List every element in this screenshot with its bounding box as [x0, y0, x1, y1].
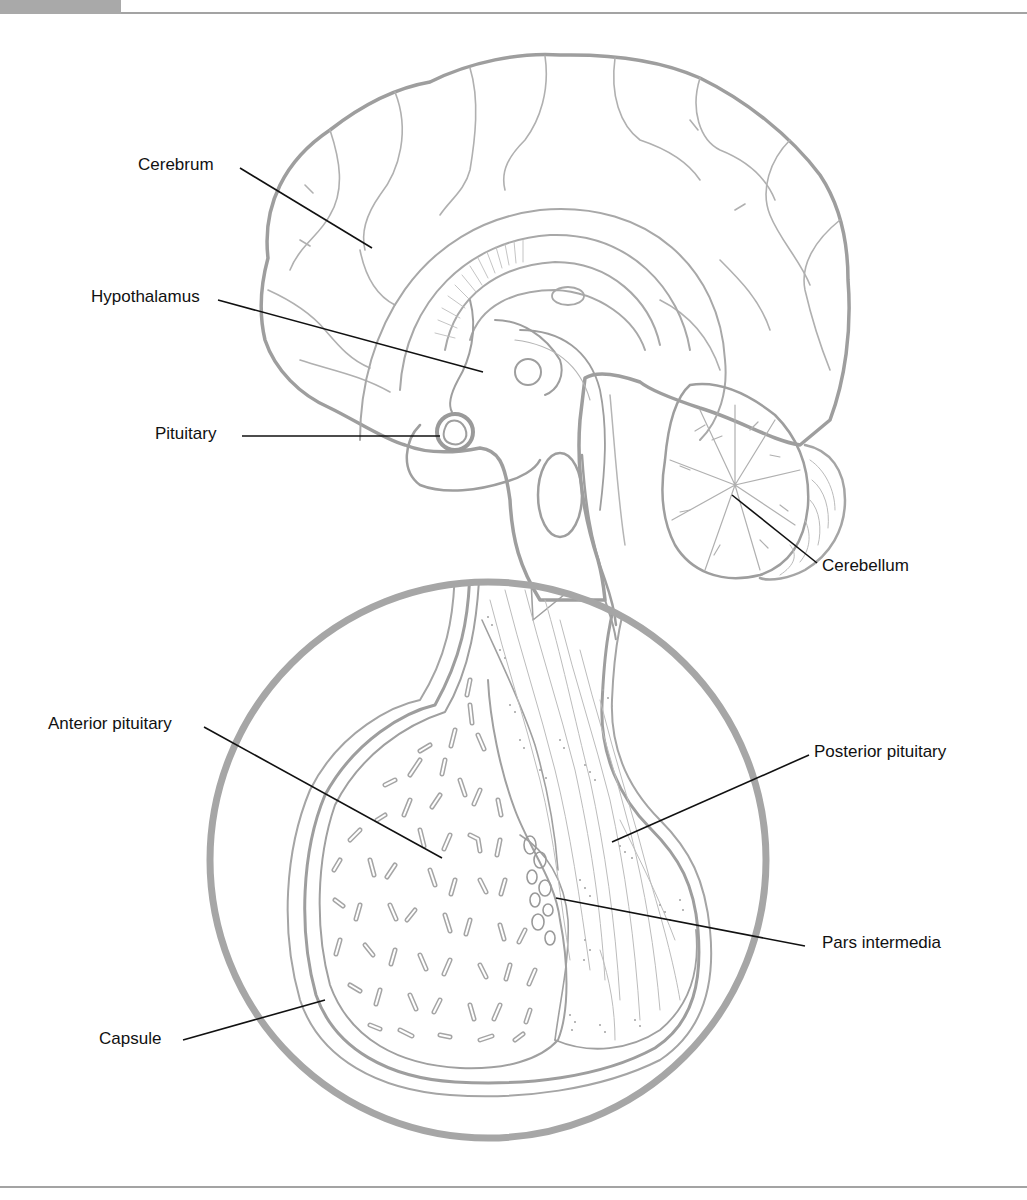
capsule-outer	[288, 560, 712, 1096]
leader-lines	[183, 168, 817, 1040]
label-capsule: Capsule	[99, 1029, 161, 1049]
brain-pituitary-illustration	[0, 0, 1027, 1200]
mammillary-body	[515, 359, 541, 385]
label-cerebrum: Cerebrum	[138, 155, 214, 175]
brain-sagittal	[261, 54, 849, 625]
label-anterior-pituitary: Anterior pituitary	[48, 714, 172, 734]
label-cerebellum: Cerebellum	[822, 556, 909, 576]
label-pituitary: Pituitary	[155, 424, 216, 444]
anterior-lobe	[320, 560, 567, 1068]
thalamus	[552, 287, 584, 305]
leader-pars-intermedia	[556, 898, 805, 946]
magnifier-ring	[210, 582, 766, 1138]
pons	[538, 453, 582, 537]
leader-hypothalamus	[218, 300, 483, 372]
label-pars-intermedia: Pars intermedia	[822, 933, 941, 953]
cerebellum	[662, 384, 845, 580]
leader-anterior-pituitary	[204, 727, 442, 858]
label-posterior-pituitary: Posterior pituitary	[814, 742, 946, 762]
magnified-pituitary	[288, 560, 712, 1096]
label-hypothalamus: Hypothalamus	[91, 287, 200, 307]
leader-cerebrum	[240, 168, 372, 248]
